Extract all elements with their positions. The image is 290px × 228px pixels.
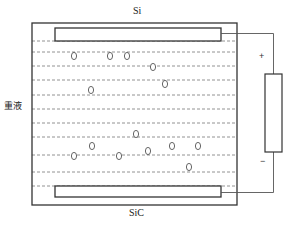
container-box <box>32 23 237 205</box>
bottom-electrode-sic <box>55 186 221 197</box>
particle-icon <box>116 152 121 159</box>
particle-icon <box>124 52 129 59</box>
bottom-electrode-label: SiC <box>129 207 144 219</box>
liquid-layers <box>32 41 237 186</box>
particle-icon <box>186 163 191 170</box>
particle-icon <box>71 52 76 59</box>
wire-positive <box>221 34 274 75</box>
particle-icon <box>195 142 200 149</box>
separation-diagram <box>0 0 290 228</box>
particle-icon <box>88 86 93 93</box>
power-supply-icon <box>265 74 282 152</box>
particle-icon <box>145 147 150 154</box>
negative-sign: − <box>260 156 265 166</box>
particle-icon <box>150 63 155 70</box>
particles <box>71 52 200 170</box>
particle-icon <box>133 130 138 137</box>
particle-icon <box>71 152 76 159</box>
particle-icon <box>89 142 94 149</box>
particle-icon <box>107 52 112 59</box>
particle-icon <box>169 142 174 149</box>
particle-icon <box>162 80 167 87</box>
positive-sign: + <box>259 51 264 61</box>
top-electrode-label: Si <box>133 5 141 17</box>
diagram-canvas: Si SiC 重液 + − <box>0 0 290 228</box>
top-electrode-si <box>55 28 221 41</box>
heavy-liquid-label: 重液 <box>4 100 22 112</box>
